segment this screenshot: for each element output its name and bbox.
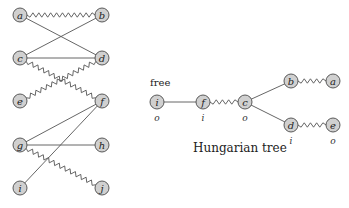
svg-text:a: a [330,76,336,87]
tree-node-c: c [238,95,252,109]
svg-text:b: b [99,10,105,21]
tree-node-i: i [150,95,164,109]
tree-node-e: e [326,118,340,132]
tree-matching-edge-b-a [298,79,326,83]
tree-side-label-e: o [330,136,336,146]
left-matching-edge-g-j [26,148,96,185]
tree-node-b: b [284,74,298,88]
svg-text:i: i [18,183,21,194]
svg-text:i: i [155,97,158,108]
free-label: free [150,77,170,88]
left-edge-i-f [20,101,102,188]
left-node-c: c [13,51,27,65]
left-edge-g-f [20,101,102,145]
left-node-e: e [13,94,27,108]
tree-node-f: f [196,95,210,109]
svg-text:g: g [17,140,23,151]
tree-side-label-i: o [154,113,160,123]
tree-side-label-f: i [202,113,205,123]
tree-edge-c-d [245,102,291,125]
tree-node-d: d [284,118,298,132]
svg-text:e: e [17,96,23,107]
tree-nodes: ioficobadieo [150,74,340,146]
left-node-f: f [95,94,109,108]
svg-text:d: d [288,120,294,131]
tree-side-label-c: o [242,113,248,123]
left-matching-edge-c-f [26,61,96,98]
left-node-a: a [13,8,27,22]
left-node-b: b [95,8,109,22]
left-node-i: i [13,181,27,195]
svg-text:c: c [242,97,248,108]
svg-text:b: b [288,76,294,87]
tree-edge-c-b [245,81,291,102]
svg-text:e: e [330,120,336,131]
tree-node-a: a [326,74,340,88]
tree-caption: Hungarian tree [193,141,287,155]
tree-side-label-d: i [290,136,293,146]
svg-text:h: h [99,140,105,151]
left-graph-edges [20,13,102,188]
svg-text:a: a [17,10,23,21]
diagram-canvas: abcdefghij ioficobadieo free Hungarian t… [0,0,349,208]
left-node-j: j [95,181,109,195]
left-matching-edge-e-d [26,61,96,98]
left-matching-edge-a-b [27,13,95,17]
svg-text:d: d [99,53,105,64]
tree-matching-edge-d-e [298,123,326,127]
svg-text:c: c [17,53,23,64]
left-node-h: h [95,138,109,152]
left-node-d: d [95,51,109,65]
left-node-g: g [13,138,27,152]
tree-matching-edge-f-c [210,100,238,104]
